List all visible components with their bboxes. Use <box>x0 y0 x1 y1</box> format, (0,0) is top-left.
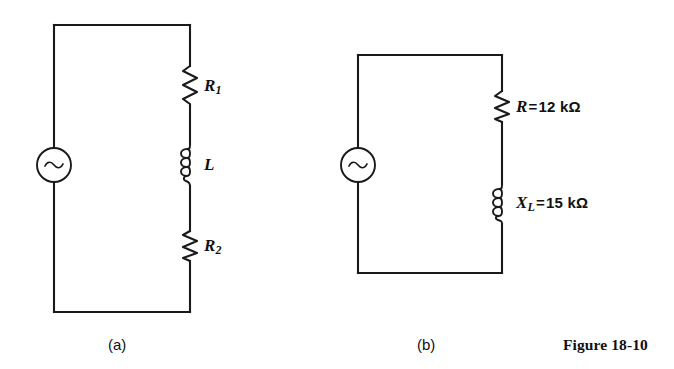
label-xl-subscript: L <box>528 200 536 214</box>
label-xl-value: XL=15 kΩ <box>516 193 588 215</box>
ac-source-a-tilde-icon <box>45 162 63 167</box>
label-r2-symbol: R <box>204 236 216 255</box>
label-r2-subscript: 2 <box>216 243 222 257</box>
label-l: L <box>204 155 215 175</box>
ac-source-b-tilde-icon <box>349 162 367 167</box>
figure-container: R1 L R2 R=12 kΩ XL=15 kΩ (a) (b) Figure … <box>0 0 674 369</box>
label-xl-equals: = <box>535 194 546 211</box>
inductor-l <box>181 144 190 186</box>
resistor-r1-zigzag-icon <box>183 66 197 107</box>
circuit-a <box>37 25 197 312</box>
inductor-l-coil-icon <box>181 144 190 186</box>
panel-caption-b: (b) <box>417 336 435 353</box>
figure-caption: Figure 18-10 <box>563 336 648 354</box>
label-xl-unit: kΩ <box>568 194 589 211</box>
resistor-r1 <box>183 66 197 107</box>
inductor-xl-coil-icon <box>493 184 502 224</box>
circuit-diagram-svg <box>0 0 674 369</box>
ac-source-b <box>341 148 375 182</box>
resistor-r <box>495 91 509 122</box>
label-r-equals: = <box>528 98 539 115</box>
label-r2: R2 <box>204 236 222 258</box>
label-r-unit: kΩ <box>560 98 581 115</box>
label-xl-symbol: X <box>516 193 528 212</box>
inductor-xl <box>493 184 502 224</box>
label-xl-number: 15 <box>546 194 563 211</box>
label-r-number: 12 <box>539 98 556 115</box>
resistor-r2 <box>183 231 197 261</box>
label-r1: R1 <box>204 76 222 98</box>
label-l-symbol: L <box>204 155 215 174</box>
resistor-r-zigzag-icon <box>495 91 509 122</box>
label-r1-subscript: 1 <box>216 83 222 97</box>
panel-caption-a: (a) <box>108 336 126 353</box>
ac-source-a <box>37 148 71 182</box>
resistor-r2-zigzag-icon <box>183 231 197 261</box>
label-r1-symbol: R <box>204 76 216 95</box>
label-r-symbol: R <box>516 97 528 116</box>
circuit-b <box>341 55 509 273</box>
label-r-value: R=12 kΩ <box>516 97 581 117</box>
